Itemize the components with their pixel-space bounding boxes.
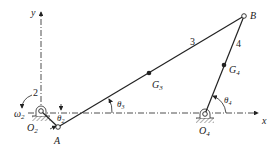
theta4-label: θ4 — [224, 95, 231, 106]
link-3 — [58, 16, 244, 127]
link-2-label: 2 — [33, 87, 38, 98]
point-a-label: A — [53, 135, 61, 146]
theta3-label: θ3 — [117, 99, 124, 110]
four-bar-linkage-diagram: y x 2 3 4 B A O2 O4 G3 G4 θ2 θ3 θ4 ω2 — [0, 0, 271, 153]
point-g4-label: G4 — [229, 64, 240, 77]
joint-b — [242, 14, 247, 19]
x-axis-label: x — [261, 115, 267, 126]
theta2-label: θ2 — [57, 113, 64, 124]
point-o2-label: O2 — [27, 122, 38, 135]
center-of-gravity-g3 — [147, 71, 152, 76]
joint-o4 — [203, 112, 208, 117]
theta3-arc — [109, 99, 112, 113]
omega2-label: ω2 — [14, 108, 25, 121]
joint-o2 — [39, 109, 44, 114]
point-b-label: B — [250, 10, 256, 21]
center-of-gravity-g4 — [222, 63, 227, 68]
link-3-label: 3 — [190, 36, 195, 47]
point-g3-label: G3 — [152, 79, 163, 92]
point-o4-label: O4 — [199, 125, 210, 138]
joint-a — [56, 125, 61, 130]
omega2-arrow — [22, 95, 32, 108]
link2-leader — [50, 126, 56, 129]
link-4-label: 4 — [236, 38, 241, 49]
y-axis-label: y — [30, 7, 36, 18]
